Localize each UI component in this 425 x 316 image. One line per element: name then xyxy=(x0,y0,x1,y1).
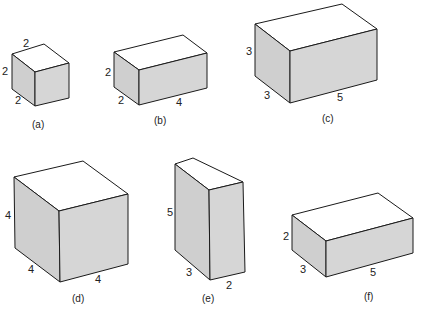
box-b-caption: (b) xyxy=(154,115,166,126)
box-e-depth-label: 3 xyxy=(186,266,192,278)
box-a: 2 2 2 (a) xyxy=(2,37,69,130)
box-b: 2 2 4 (b) xyxy=(105,35,207,126)
box-f-width-label: 5 xyxy=(370,266,376,278)
box-b-width-label: 4 xyxy=(176,96,182,108)
box-e-height-label: 5 xyxy=(167,206,173,218)
box-c-height-label: 3 xyxy=(246,45,252,57)
box-c: 3 3 5 (c) xyxy=(246,4,377,124)
box-e-width-label: 2 xyxy=(226,279,232,291)
box-a-top-label: 2 xyxy=(23,37,29,49)
box-e-caption: (e) xyxy=(202,293,214,304)
box-a-depth-label: 2 xyxy=(15,94,21,106)
box-c-width-label: 5 xyxy=(337,91,343,103)
box-b-height-label: 2 xyxy=(105,66,111,78)
box-a-caption: (a) xyxy=(32,119,44,130)
box-b-depth-label: 2 xyxy=(118,94,124,106)
box-e: 5 3 2 (e) xyxy=(167,158,245,304)
box-a-height-label: 2 xyxy=(2,65,8,77)
rectangular-prisms-figure: 2 2 2 (a) 2 2 4 (b) 3 3 5 (c) 4 4 4 (d) xyxy=(0,0,425,316)
box-c-caption: (c) xyxy=(322,113,334,124)
box-d: 4 4 4 (d) xyxy=(5,161,128,304)
box-f-caption: (f) xyxy=(364,291,373,302)
box-d-width-label: 4 xyxy=(95,273,101,285)
box-f: 2 3 5 (f) xyxy=(283,193,413,302)
box-c-depth-label: 3 xyxy=(264,89,270,101)
box-d-caption: (d) xyxy=(72,293,84,304)
box-f-depth-label: 3 xyxy=(300,263,306,275)
box-d-height-label: 4 xyxy=(5,209,11,221)
box-e-front-face xyxy=(209,182,245,280)
box-f-height-label: 2 xyxy=(283,230,289,242)
box-d-depth-label: 4 xyxy=(28,263,34,275)
